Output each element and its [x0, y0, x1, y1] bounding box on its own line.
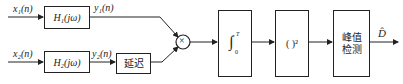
block-diagram: x₁(n) x₂(n) H₁(jω) H₂(jω) y₁(n) y₂(n) 延迟… [0, 0, 403, 84]
filter-h2-label: H₂(jω) [53, 57, 80, 68]
peak-label-line1: 峰值 [342, 32, 362, 44]
filter-h2-block: H₂(jω) [44, 51, 90, 73]
integral-symbol: ∫ [229, 34, 233, 50]
peak-label-line2: 检测 [342, 44, 362, 56]
integral-lower-limit: 0 [235, 49, 238, 55]
integrator-block: ∫ T 0 [218, 10, 252, 77]
output-d-hat-label: D̂ [378, 28, 386, 39]
square-label: ( )² [286, 38, 298, 49]
square-block: ( )² [275, 10, 309, 77]
filter-h1-block: H₁(jω) [44, 6, 90, 29]
input-x2-label: x₂(n) [13, 49, 33, 59]
arrow-y1-to-multiplier [90, 17, 178, 37]
output-y1-label: y₁(n) [94, 3, 114, 13]
delay-block: 延迟 [116, 53, 151, 74]
input-x1-label: x₁(n) [13, 4, 33, 14]
multiplier-symbol: × [179, 36, 185, 46]
output-y2-label: y₂(n) [92, 49, 112, 59]
peak-detection-block: 峰值 检测 [333, 10, 370, 77]
arrow-delay-to-multiplier [151, 47, 178, 62]
delay-label: 延迟 [124, 58, 144, 70]
filter-h1-label: H₁(jω) [53, 12, 80, 23]
integral-upper-limit: T [236, 31, 239, 37]
